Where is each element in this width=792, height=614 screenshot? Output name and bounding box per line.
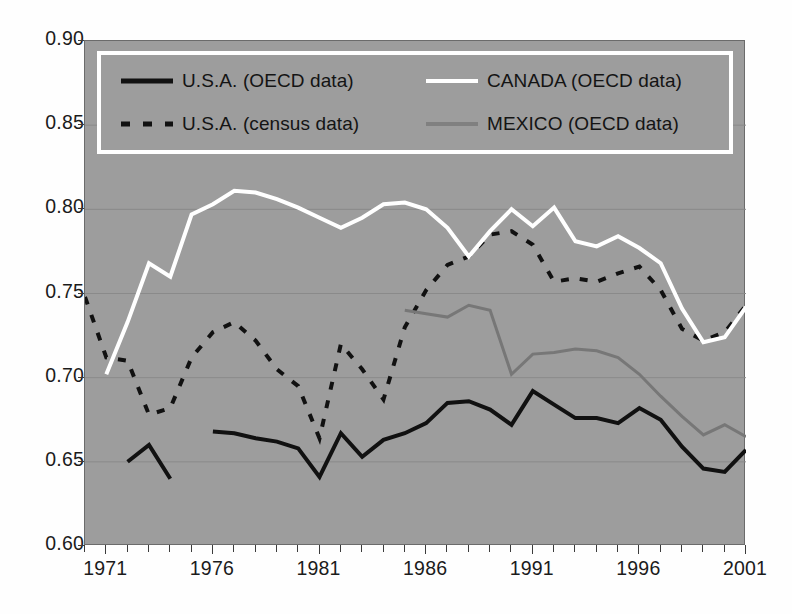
y-axis: 0.600.650.700.750.800.850.90 — [0, 0, 84, 614]
solid-line-swatch-icon — [119, 74, 175, 88]
x-axis-tick-mark-minor — [574, 545, 575, 552]
x-axis-tick-mark-minor — [169, 545, 170, 552]
legend-entry-usa-oecd[interactable]: U.S.A. (OECD data) — [119, 70, 424, 92]
x-axis-tick-label: 1991 — [510, 557, 554, 580]
x-axis-tick-label: 1986 — [403, 557, 447, 580]
legend-grid: U.S.A. (OECD data) CANADA (OECD data) U.… — [101, 55, 729, 150]
solid-line-swatch-icon — [424, 117, 480, 131]
x-axis-tick-label: 1996 — [616, 557, 660, 580]
x-axis-tick-mark-minor — [233, 545, 234, 552]
x-axis-tick-mark-minor — [724, 545, 725, 552]
chart-screenshot: 0.600.650.700.750.800.850.90 U.S.A. (OEC… — [0, 0, 792, 614]
x-axis-tick-mark-minor — [276, 545, 277, 552]
y-axis-tick-label: 0.60 — [22, 532, 84, 555]
x-axis-tick-mark-major — [212, 545, 213, 554]
legend-label-mexico-oecd: MEXICO (OECD data) — [487, 113, 679, 135]
legend-label-canada-oecd: CANADA (OECD data) — [487, 70, 682, 92]
y-axis-tick-label: 0.80 — [22, 195, 84, 218]
x-axis-tick-mark-minor — [510, 545, 511, 552]
solid-line-swatch-icon — [424, 74, 480, 88]
x-axis: 1971197619811986199119962001 — [84, 545, 746, 605]
x-axis-tick-mark-major — [105, 545, 106, 554]
x-axis-tick-label: 1976 — [190, 557, 234, 580]
x-axis-tick-mark-minor — [404, 545, 405, 552]
x-axis-tick-mark-minor — [702, 545, 703, 552]
x-axis-tick-mark-major — [638, 545, 639, 554]
x-axis-tick-label: 2001 — [723, 557, 767, 580]
x-axis-tick-mark-minor — [148, 545, 149, 552]
plot-area: U.S.A. (OECD data) CANADA (OECD data) U.… — [84, 40, 745, 545]
y-axis-tick-label: 0.90 — [22, 27, 84, 50]
x-axis-tick-mark-minor — [191, 545, 192, 552]
x-axis-tick-mark-minor — [489, 545, 490, 552]
x-axis-tick-mark-minor — [127, 545, 128, 552]
x-axis-tick-mark-minor — [596, 545, 597, 552]
x-axis-tick-mark-minor — [660, 545, 661, 552]
legend-entry-usa-census[interactable]: U.S.A. (census data) — [119, 113, 424, 135]
x-axis-tick-mark-major — [745, 545, 746, 554]
x-axis-tick-mark-minor — [255, 545, 256, 552]
chart-legend: U.S.A. (OECD data) CANADA (OECD data) U.… — [97, 51, 733, 154]
legend-label-usa-oecd: U.S.A. (OECD data) — [182, 70, 354, 92]
series-line-0 — [213, 391, 746, 477]
x-axis-tick-mark-minor — [617, 545, 618, 552]
x-axis-tick-mark-minor — [383, 545, 384, 552]
legend-entry-canada-oecd[interactable]: CANADA (OECD data) — [424, 70, 729, 92]
y-axis-tick-label: 0.85 — [22, 111, 84, 134]
series-line-1 — [85, 231, 746, 438]
x-axis-tick-mark-minor — [446, 545, 447, 552]
y-axis-tick-label: 0.65 — [22, 448, 84, 471]
y-axis-tick-label: 0.75 — [22, 280, 84, 303]
x-axis-tick-mark-minor — [681, 545, 682, 552]
x-axis-tick-mark-minor — [297, 545, 298, 552]
y-axis-tick-label: 0.70 — [22, 364, 84, 387]
x-axis-tick-mark-minor — [553, 545, 554, 552]
x-axis-tick-mark-minor — [84, 545, 85, 552]
legend-entry-mexico-oecd[interactable]: MEXICO (OECD data) — [424, 113, 729, 135]
dashed-line-swatch-icon — [119, 117, 175, 131]
x-axis-tick-label: 1981 — [296, 557, 340, 580]
x-axis-tick-mark-minor — [340, 545, 341, 552]
x-axis-tick-mark-minor — [468, 545, 469, 552]
x-axis-tick-label: 1971 — [83, 557, 127, 580]
legend-label-usa-census: U.S.A. (census data) — [182, 113, 359, 135]
x-axis-tick-mark-major — [425, 545, 426, 554]
x-axis-tick-mark-minor — [361, 545, 362, 552]
x-axis-tick-mark-major — [532, 545, 533, 554]
x-axis-tick-mark-major — [319, 545, 320, 554]
